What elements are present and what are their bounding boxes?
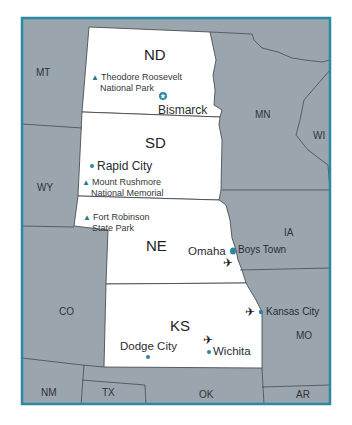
city-label-rapid-city: Rapid City	[97, 160, 152, 172]
city-label-bismarck: Bismarck	[158, 104, 207, 116]
city-dot-icon	[90, 164, 94, 168]
park-name-line2: National Park	[91, 83, 154, 93]
park-name-line2: State Park	[83, 223, 134, 233]
map	[0, 0, 352, 425]
city-label-boys-town: Boys Town	[238, 245, 286, 255]
park-mount-rushmore: ▲Mount Rushmore National Memorial	[82, 177, 164, 199]
park-name-line1: Mount Rushmore	[92, 177, 161, 187]
state-label-mn: MN	[255, 110, 271, 120]
park-triangle-icon: ▲	[91, 73, 99, 82]
city-dot-icon	[259, 310, 263, 314]
park-name-line1: Theodore Roosevelt	[101, 72, 182, 82]
airplane-icon: ✈	[245, 306, 255, 318]
state-label-ne: NE	[146, 238, 167, 253]
state-label-sd: SD	[145, 135, 166, 150]
city-label-dodge-city: Dodge City	[120, 341, 177, 353]
state-label-co: CO	[59, 307, 74, 317]
city-dot-icon	[230, 248, 236, 255]
state-label-ok: OK	[199, 390, 213, 400]
park-name-line2: National Memorial	[82, 188, 164, 198]
state-label-nm: NM	[41, 388, 57, 398]
state-label-ia: IA	[284, 228, 293, 238]
park-fort-robinson: ▲Fort Robinson State Park	[83, 212, 149, 234]
city-label-omaha: Omaha	[188, 246, 226, 258]
airplane-icon: ✈	[203, 334, 213, 346]
city-dot-icon	[146, 355, 150, 359]
state-label-tx: TX	[102, 388, 115, 398]
state-label-wy: WY	[37, 183, 53, 193]
state-label-wi: WI	[313, 131, 325, 141]
state-label-mt: MT	[36, 68, 50, 78]
state-label-nd: ND	[144, 47, 166, 62]
state-label-ks: KS	[170, 318, 190, 333]
park-theodore-roosevelt: ▲Theodore Roosevelt National Park	[91, 72, 182, 94]
park-triangle-icon: ▲	[82, 178, 90, 187]
city-label-wichita: Wichita	[213, 346, 251, 358]
city-label-kansas-city: Kansas City	[266, 307, 319, 317]
state-label-mo: MO	[296, 331, 312, 341]
state-label-ar: AR	[296, 390, 310, 400]
city-dot-icon	[207, 350, 211, 354]
park-name-line1: Fort Robinson	[93, 212, 150, 222]
airplane-icon: ✈	[223, 257, 233, 269]
park-triangle-icon: ▲	[83, 213, 91, 222]
